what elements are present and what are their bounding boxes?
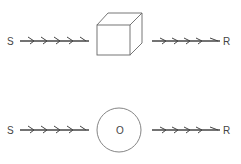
black-box-cube-icon	[97, 13, 142, 55]
output-arrow-bottom-icon	[152, 127, 220, 133]
input-arrow-bottom-icon	[20, 126, 89, 133]
top-row: S R	[7, 13, 230, 55]
stimulus-label-top: S	[7, 36, 14, 47]
bottom-row: S O R	[7, 108, 230, 152]
organism-label: O	[116, 125, 124, 136]
output-arrow-top-icon	[152, 38, 220, 44]
input-arrow-top-icon	[20, 37, 89, 44]
sr-diagram: S R S	[0, 0, 241, 164]
response-label-bottom: R	[223, 125, 230, 136]
response-label-top: R	[223, 36, 230, 47]
stimulus-label-bottom: S	[7, 125, 14, 136]
